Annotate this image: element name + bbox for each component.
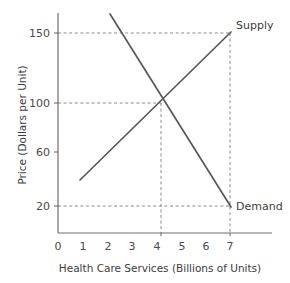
demand-curve: [110, 14, 231, 207]
y-tick-label-150: 150: [29, 27, 50, 40]
supply-curve-label: Supply: [236, 19, 274, 32]
guide-lines: [58, 33, 230, 233]
supply-demand-chart: 150 100 60 20 0 1 2 3 4 5 6 7 Supply Dem…: [0, 0, 290, 283]
x-tick-label-5: 5: [179, 240, 186, 253]
x-tick-label-6: 6: [203, 240, 210, 253]
demand-curve-label: Demand: [236, 200, 283, 213]
chart-canvas: 150 100 60 20 0 1 2 3 4 5 6 7 Supply Dem…: [0, 0, 290, 283]
x-tick-label-3: 3: [129, 240, 136, 253]
y-tick-labels: 150 100 60 20: [29, 27, 50, 213]
x-tick-label-4: 4: [154, 240, 161, 253]
y-tick-label-100: 100: [29, 97, 50, 110]
x-tick-label-1: 1: [80, 240, 87, 253]
x-tick-label-0: 0: [55, 240, 62, 253]
supply-curve: [80, 32, 231, 180]
y-axis-title: Price (Dollars per Unit): [16, 65, 28, 184]
x-tick-label-2: 2: [105, 240, 112, 253]
x-axis-title: Health Care Services (Billions of Units): [59, 262, 261, 274]
y-tick-label-60: 60: [36, 146, 50, 159]
y-tick-label-20: 20: [36, 200, 50, 213]
x-tick-labels: 0 1 2 3 4 5 6 7: [55, 240, 234, 253]
data-curves: [80, 14, 231, 207]
x-tick-label-7: 7: [227, 240, 234, 253]
